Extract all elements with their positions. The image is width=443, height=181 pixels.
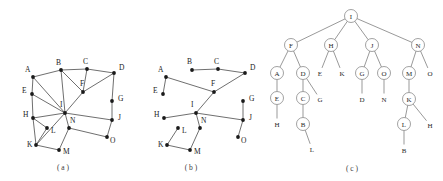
tree-edge-H-E <box>322 51 329 68</box>
graph-edge-FI <box>65 92 83 113</box>
panel-a: ABCDEFGIHJLNOKM( a ) <box>22 57 125 172</box>
graph-vertex-label-N: N <box>70 116 76 125</box>
graph-edge-HK <box>33 118 36 145</box>
graph-vertex-L[interactable] <box>45 126 49 130</box>
tree-leaf-label-L2: L <box>310 146 314 154</box>
graph-vertex-G[interactable] <box>110 99 114 103</box>
graph-vertex-C[interactable] <box>216 67 220 71</box>
tree-node-label-A: A <box>274 70 279 78</box>
tree-node-label-N: N <box>415 42 420 50</box>
panel-a-vertices: ABCDEFGIHJLNOKM <box>22 57 125 156</box>
tree-edge-I-F <box>297 19 345 42</box>
graph-edge-CD <box>218 69 245 73</box>
tree-node-label-K2: K <box>406 96 411 104</box>
graph-vertex-M[interactable] <box>57 148 61 152</box>
graph-vertex-K[interactable] <box>165 143 169 147</box>
graph-vertex-label-H: H <box>23 110 29 119</box>
graph-vertex-F[interactable] <box>212 90 216 94</box>
tree-edge-J-G <box>364 51 370 67</box>
graph-vertex-D[interactable] <box>112 71 116 75</box>
tree-leaf-label-E: E <box>318 70 322 78</box>
graph-vertex-E[interactable] <box>30 92 34 96</box>
graph-vertex-J[interactable] <box>241 118 245 122</box>
tree-leaf-label-O2: O <box>427 70 432 78</box>
graph-vertex-label-G: G <box>118 94 124 103</box>
graph-edge-AE <box>163 77 166 94</box>
tree-edge-D-G2 <box>307 78 317 94</box>
graph-edge-NO <box>69 128 107 137</box>
graph-vertex-label-C: C <box>83 57 88 66</box>
graph-edge-FI <box>196 92 214 113</box>
tree-edge-I-N <box>357 19 412 43</box>
tree-edge-N-O2 <box>421 51 428 68</box>
graph-edge-IN <box>196 113 200 128</box>
graph-edge-MK <box>167 145 190 150</box>
graph-edge-IH <box>33 113 65 118</box>
graph-vertex-E[interactable] <box>161 92 165 96</box>
graph-vertex-label-M: M <box>63 147 70 156</box>
graph-vertex-L[interactable] <box>176 126 180 130</box>
tree-leaf-label-G2: G <box>317 96 322 104</box>
panel-b: ABCDEFGIHJLNOKM( b ) <box>153 57 256 172</box>
graph-edge-KM <box>36 145 59 150</box>
graph-vertex-I[interactable] <box>194 111 198 115</box>
graph-vertex-J[interactable] <box>110 118 114 122</box>
graph-vertex-A[interactable] <box>164 75 168 79</box>
tree-leaf-label-H3: H <box>427 122 432 130</box>
graph-edge-LK <box>36 128 47 145</box>
tree-node-label-O: O <box>381 70 386 78</box>
graph-vertex-N[interactable] <box>67 126 71 130</box>
tree-edge-F-D <box>294 51 301 67</box>
tree-node-label-D: D <box>300 70 305 78</box>
graph-vertex-B[interactable] <box>190 68 194 72</box>
tree-edge-J-O <box>375 51 382 67</box>
graph-vertex-label-I: I <box>191 100 194 109</box>
tree-node-label-J: J <box>371 42 374 50</box>
graph-edge-DF <box>83 73 114 92</box>
panel-c-caption: ( c ) <box>346 164 359 173</box>
graph-vertex-label-F: F <box>211 79 215 88</box>
graph-vertex-O[interactable] <box>105 135 109 139</box>
graph-vertex-label-J: J <box>118 113 121 122</box>
graph-vertex-B[interactable] <box>59 68 63 72</box>
graph-vertex-D[interactable] <box>243 71 247 75</box>
graph-vertex-K[interactable] <box>34 143 38 147</box>
graph-vertex-label-G: G <box>249 94 255 103</box>
graph-vertex-O[interactable] <box>236 135 240 139</box>
panel-b-caption: ( b ) <box>185 163 198 172</box>
graph-vertex-label-B: B <box>56 58 61 67</box>
graph-vertex-label-D: D <box>119 63 125 72</box>
graph-vertex-label-J: J <box>249 113 252 122</box>
graph-edge-OJ <box>107 120 112 137</box>
graph-vertex-A[interactable] <box>31 75 35 79</box>
graph-vertex-M[interactable] <box>188 148 192 152</box>
graph-vertex-label-I: I <box>60 100 63 109</box>
tree-node-label-F: F <box>289 42 293 50</box>
graph-vertex-H[interactable] <box>162 116 166 120</box>
graph-vertex-N[interactable] <box>198 126 202 130</box>
graph-vertex-I[interactable] <box>63 111 67 115</box>
panel-a-edges <box>32 69 114 150</box>
graph-vertex-label-H: H <box>154 110 160 119</box>
figure-container: ABCDEFGIHJLNOKM( a )ABCDEFGIHJLNOKM( b )… <box>0 0 443 181</box>
panel-a-caption: ( a ) <box>57 163 70 172</box>
tree-edge-I-H <box>335 21 348 39</box>
tree-edge-K2-L <box>405 105 407 117</box>
graph-vertex-label-A: A <box>25 65 31 74</box>
tree-leaf-label-N2: N <box>381 96 386 104</box>
graph-vertex-label-L: L <box>51 126 56 135</box>
panel-b-vertices: ABCDEFGIHJLNOKM <box>153 57 256 156</box>
graph-vertex-C[interactable] <box>85 67 89 71</box>
graph-edge-HL <box>33 118 47 128</box>
graph-vertex-G[interactable] <box>241 99 245 103</box>
tree-leaf-label-B2: B <box>402 147 407 155</box>
graph-vertex-label-M: M <box>194 147 201 156</box>
graph-figure-svg: ABCDEFGIHJLNOKM( a )ABCDEFGIHJLNOKM( b )… <box>0 0 443 181</box>
tree-edge-B-L2 <box>305 130 310 144</box>
graph-vertex-label-K: K <box>27 140 33 149</box>
panel-c: IFHJNADEKGOMOECGDNKHBLHLB( c ) <box>271 10 433 174</box>
graph-vertex-F[interactable] <box>81 90 85 94</box>
graph-vertex-H[interactable] <box>31 116 35 120</box>
graph-vertex-label-F: F <box>80 79 84 88</box>
tree-edge-F-A <box>280 51 288 67</box>
